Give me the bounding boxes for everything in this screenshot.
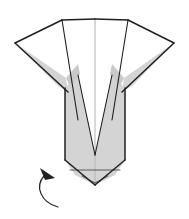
top-edge-left-line <box>62 19 95 20</box>
arrow-curve-path <box>40 176 58 207</box>
top-edge-right-line <box>95 19 128 20</box>
origami-figure-svg: Origami fold step diagram <box>0 0 189 219</box>
origami-diagram: Origami fold step diagram <box>0 0 189 219</box>
fold-direction-arrow <box>40 168 58 207</box>
